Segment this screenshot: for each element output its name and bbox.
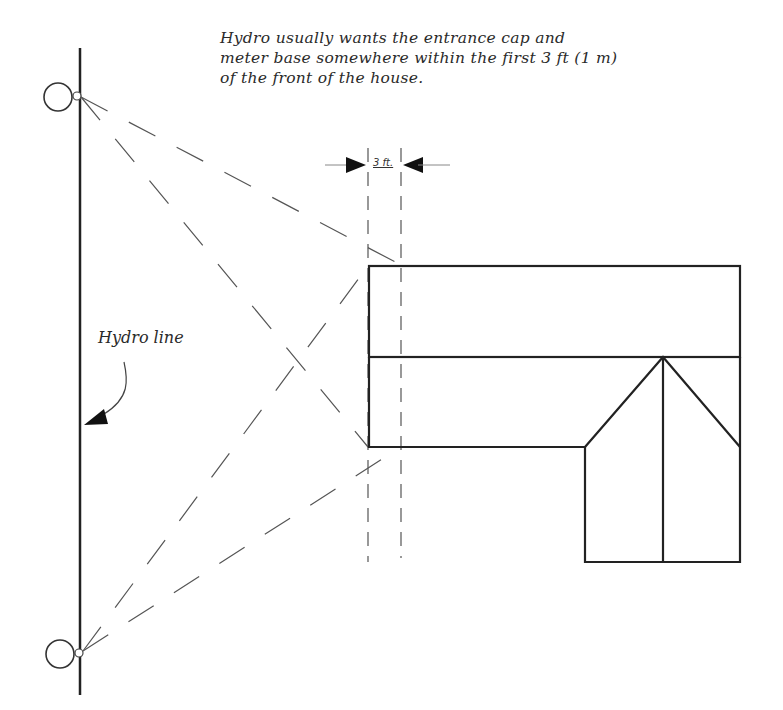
- arrow-pointer-icon: [84, 409, 108, 425]
- hydro-line-label: Hydro line: [98, 328, 184, 347]
- sight-lines-top: [81, 97, 401, 447]
- dimension-label: 3 ft.: [373, 157, 393, 168]
- caption-line-2: meter base somewhere within the first 3 …: [220, 48, 760, 68]
- setback-guides: [368, 148, 401, 562]
- house-outline: [369, 266, 740, 562]
- top-pole-icon: [44, 83, 81, 111]
- hydro-service-diagram: [0, 0, 783, 710]
- bottom-pole-icon: [46, 640, 83, 668]
- arrow-right-icon: [346, 157, 366, 173]
- caption-note: Hydro usually wants the entrance cap and…: [220, 28, 760, 88]
- sight-lines-bottom: [83, 266, 401, 651]
- caption-line-3: of the front of the house.: [220, 68, 760, 88]
- caption-line-1: Hydro usually wants the entrance cap and: [220, 28, 760, 48]
- hydro-line-leader: [84, 362, 126, 425]
